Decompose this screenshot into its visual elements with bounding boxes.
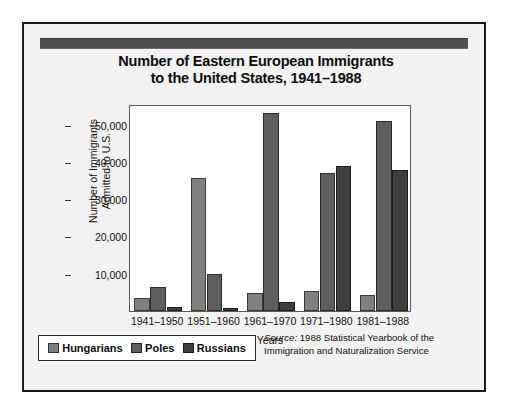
bar-russians-1971–1980 <box>336 166 352 311</box>
y-axis-tick-label: 30,000 <box>71 194 127 206</box>
y-axis-tick-label: 20,000 <box>71 231 127 243</box>
bar-group <box>243 106 299 311</box>
bar-russians-1941–1950 <box>167 307 183 311</box>
chart-legend: HungariansPolesRussians <box>38 335 256 361</box>
bar-poles-1961–1970 <box>263 113 279 311</box>
bar-hungarians-1971–1980 <box>304 291 320 311</box>
bar-group <box>186 106 242 311</box>
source-note: Source: 1988 Statistical Yearbook of the… <box>264 332 476 357</box>
y-axis-tick-label: 40,000 <box>71 157 127 169</box>
source-line-1: Source: 1988 Statistical Yearbook of the <box>264 332 476 345</box>
bar-poles-1951–1960 <box>207 274 223 311</box>
y-axis-tick-mark <box>65 163 71 164</box>
decorative-accent-bar <box>40 38 468 49</box>
legend-swatch-icon <box>48 343 59 353</box>
bar-russians-1961–1970 <box>279 302 295 311</box>
legend-label: Hungarians <box>62 342 123 354</box>
legend-swatch-icon <box>131 343 142 353</box>
bar-poles-1981–1988 <box>376 121 392 311</box>
y-axis-tick-label: 50,000 <box>71 120 127 132</box>
plot-canvas <box>129 105 411 312</box>
x-axis-tick-label: 1981–1988 <box>355 315 411 327</box>
legend-item-poles[interactable]: Poles <box>131 342 174 354</box>
bar-hungarians-1951–1960 <box>191 178 207 311</box>
legend-swatch-icon <box>183 343 194 353</box>
source-label: Source: <box>264 332 297 343</box>
y-axis-tick-mark <box>65 126 71 127</box>
title-line-2: to the United States, 1941–1988 <box>34 70 478 87</box>
page-title: Number of Eastern European Immigrants to… <box>34 53 478 87</box>
x-axis-tick-label: 1951–1960 <box>185 315 241 327</box>
legend-item-russians[interactable]: Russians <box>183 342 246 354</box>
title-line-1: Number of Eastern European Immigrants <box>34 53 478 70</box>
chart-card: Number of Eastern European Immigrants to… <box>22 22 486 392</box>
x-axis-tick-label: 1941–1950 <box>129 315 185 327</box>
bar-group <box>130 106 186 311</box>
bar-poles-1971–1980 <box>320 173 336 311</box>
y-axis-tick-mark <box>65 275 71 276</box>
plot-area-wrapper: Number of Immigrants Admitted to U.S. 10… <box>129 105 411 312</box>
y-axis-tick-mark <box>65 237 71 238</box>
source-text-1: 1988 Statistical Yearbook of the <box>297 332 434 343</box>
x-axis-tick-label: 1971–1980 <box>298 315 354 327</box>
bar-russians-1951–1960 <box>223 308 239 311</box>
figure-root: Number of Eastern European Immigrants to… <box>0 0 508 413</box>
legend-label: Poles <box>145 342 174 354</box>
bar-russians-1981–1988 <box>392 170 408 311</box>
bar-poles-1941–1950 <box>150 287 166 311</box>
y-axis-tick-mark <box>65 200 71 201</box>
legend-label: Russians <box>197 342 246 354</box>
bar-hungarians-1981–1988 <box>360 295 376 311</box>
bar-hungarians-1941–1950 <box>134 298 150 311</box>
legend-item-hungarians[interactable]: Hungarians <box>48 342 123 354</box>
x-axis-tick-label: 1961–1970 <box>242 315 298 327</box>
bar-group <box>356 106 411 311</box>
bar-group <box>299 106 355 311</box>
y-axis-tick-label: 10,000 <box>71 269 127 281</box>
source-line-2: Immigration and Naturalization Service <box>264 345 476 358</box>
bar-hungarians-1961–1970 <box>247 293 263 311</box>
